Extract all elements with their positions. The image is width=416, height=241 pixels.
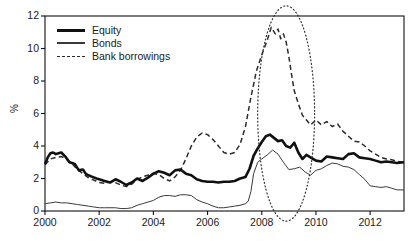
annotation-group [258,6,315,221]
legend-label-equity: Equity [92,24,121,36]
bank-borrowings-line-swatch-icon [57,51,85,61]
bonds-line-swatch-icon [57,38,85,48]
legend-item-equity: Equity [57,24,121,36]
legend-label-bank-borrowings: Bank borrowings [92,50,170,62]
series-line-equity [45,135,404,185]
legend-item-bank-borrowings: Bank borrowings [57,50,170,62]
equity-line-swatch-icon [57,25,85,35]
chart-container: % 024681012 2000200220042006200820102012… [0,0,416,241]
legend-item-bonds: Bonds [57,37,122,49]
legend-label-bonds: Bonds [92,37,122,49]
crisis-highlight-ellipse [258,6,315,221]
